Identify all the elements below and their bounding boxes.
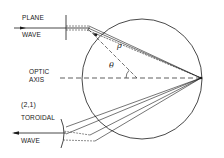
toroidal-ray-1 <box>66 78 201 127</box>
toroidal-ray-2 <box>66 78 201 134</box>
radius-line <box>88 29 137 78</box>
toroidal-ray-4-ext <box>63 140 95 141</box>
reflected-ray-1 <box>89 26 201 78</box>
reflected-ray-2 <box>88 28 201 78</box>
theta-symbol: θ <box>109 62 114 70</box>
plane-wave-label-line2: WAVE <box>22 32 41 39</box>
optic-axis-label-line2: AXIS <box>29 77 44 84</box>
plane-wave-arrowhead-icon <box>20 27 26 30</box>
toroidal-mode-label: (2,1) <box>21 101 36 108</box>
rho-symbol: ρ <box>117 42 122 50</box>
toroidal-ray-3-ext <box>63 131 90 135</box>
reflected-ray-3 <box>87 30 201 78</box>
toroidal-wave-label-line2: WAVE <box>21 138 40 145</box>
toroidal-ray-3 <box>90 78 201 135</box>
toroidal-ray-4 <box>95 78 201 141</box>
toroidal-arrowhead-icon <box>12 131 19 134</box>
plane-wave-label-line1: PLANE <box>22 15 44 22</box>
optic-axis-label-line1: OPTIC <box>29 69 49 76</box>
sphere-circle <box>82 19 202 139</box>
theta-arc <box>126 70 129 78</box>
toroidal-wave-label-line1: TOROIDAL <box>21 115 55 122</box>
optics-diagram: PLANE WAVE OPTIC AXIS (2,1) TOROIDAL WAV… <box>0 0 224 158</box>
toroidal-wavefront <box>61 119 64 148</box>
